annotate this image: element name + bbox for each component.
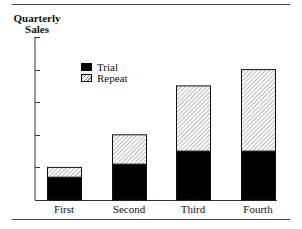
x-tick-label-second: Second: [104, 203, 154, 215]
legend-label-repeat: Repeat: [97, 72, 128, 84]
bar-segment-repeat-fourth: [242, 70, 276, 152]
bar-segment-repeat-first: [48, 167, 82, 177]
repeat-swatch-icon: [81, 74, 92, 82]
bar-segment-trial-fourth: [242, 151, 276, 200]
bars: [48, 70, 276, 200]
x-tick-label-first: First: [39, 203, 89, 215]
bar-segment-repeat-third: [177, 86, 211, 151]
bar-segment-trial-first: [48, 177, 82, 200]
bar-segment-trial-second: [113, 164, 147, 200]
legend-item-repeat: Repeat: [81, 73, 128, 83]
x-tick-label-fourth: Fourth: [233, 203, 283, 215]
bar-segment-repeat-second: [113, 135, 147, 164]
legend-item-trial: Trial: [81, 62, 118, 72]
x-tick-label-third: Third: [168, 203, 218, 215]
stacked-bar-chart: [0, 0, 302, 229]
bar-segment-trial-third: [177, 151, 211, 200]
trial-swatch-icon: [81, 63, 92, 71]
